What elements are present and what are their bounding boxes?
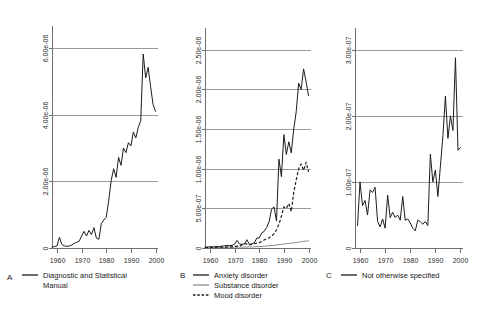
panel-a-grid [52,49,158,182]
panel-a-ticks: 02.00e-064.00e-066.00e-06196019701980199… [42,35,165,264]
legend-label: Not otherwise specified [362,271,440,280]
panel-letter: C [326,271,332,280]
y-tick-label: 5.00e-07 [195,195,202,223]
x-tick-label: 1970 [75,257,91,264]
figure-root: 02.00e-064.00e-066.00e-06196019701980199… [0,0,500,318]
legend-label: Anxiety disorder [214,271,268,280]
x-tick-label: 1960 [50,257,66,264]
y-tick-label: 2.00e-06 [195,76,202,104]
legend-label: Manual [43,281,68,290]
x-tick-label: 1990 [124,257,140,264]
panel-c-axes [355,28,463,249]
y-tick-label: 1.00e-06 [195,156,202,184]
panel-c-svg: 01.00e-072.00e-073.00e-07196019701980199… [308,0,500,318]
y-tick-label: 3.00e-07 [345,37,352,65]
panel-b-ticks: 05.00e-071.00e-061.50e-062.00e-062.50e-0… [195,37,318,264]
panel-a-svg: 02.00e-064.00e-066.00e-06196019701980199… [0,0,172,318]
y-tick-label: 0 [195,246,202,250]
x-tick-label: 1970 [378,257,394,264]
x-tick-label: 1980 [252,257,268,264]
legend-label: Mood disorder [214,291,262,300]
legend-label: Diagnostic and Statistical [43,271,127,280]
x-tick-label: 1960 [353,257,369,264]
panel-a-legend: ADiagnostic and StatisticalManual [7,271,127,290]
x-tick-label: 1980 [403,257,419,264]
series-line [205,69,309,247]
y-tick-label: 6.00e-06 [42,35,49,63]
panel-c-series [358,58,461,231]
panel-letter: A [7,273,13,282]
x-tick-label: 1970 [228,257,244,264]
y-tick-label: 2.50e-06 [195,37,202,65]
y-tick-label: 1.50e-06 [195,116,202,144]
panel-letter: B [180,271,185,280]
y-tick-label: 0 [42,246,49,250]
series-line [52,54,156,247]
x-tick-label: 1990 [428,257,444,264]
x-tick-label: 2000 [453,257,469,264]
x-tick-label: 1990 [277,257,293,264]
x-tick-label: 1980 [99,257,115,264]
panel-c-ticks: 01.00e-072.00e-073.00e-07196019701980199… [345,37,469,264]
panel-b-legend: BAnxiety disorderSubstance disorderMood … [180,271,279,300]
panel-a-axes [52,26,158,249]
y-tick-label: 2.00e-07 [345,103,352,131]
y-tick-label: 2.00e-06 [42,168,49,196]
series-line [358,58,461,231]
chart-panel-c: 01.00e-072.00e-073.00e-07196019701980199… [308,0,500,318]
panel-b-axes [205,28,311,249]
y-tick-label: 0 [345,246,352,250]
panel-b-series [205,69,309,248]
y-tick-label: 1.00e-07 [345,169,352,197]
legend-label: Substance disorder [214,281,279,290]
y-tick-label: 4.00e-06 [42,102,49,130]
series-line [205,162,309,247]
x-tick-label: 1960 [203,257,219,264]
panel-b-svg: 05.00e-071.00e-061.50e-062.00e-062.50e-0… [155,0,327,318]
chart-panel-b: 05.00e-071.00e-061.50e-062.00e-062.50e-0… [155,0,327,318]
chart-panel-a: 02.00e-064.00e-066.00e-06196019701980199… [0,0,172,318]
panel-c-legend: CNot otherwise specified [326,271,440,280]
panel-a-series [52,54,156,247]
